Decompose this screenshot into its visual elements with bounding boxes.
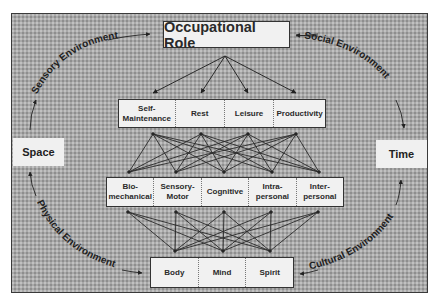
- area-leisure: Leisure: [224, 100, 273, 127]
- performance-components-box: Bio-mechanical Sensory-Motor Cognitive I…: [106, 177, 344, 207]
- physical-environment-label: Physical Environment: [35, 198, 117, 269]
- occupational-performance-diagram: Sensory Environment Social Environment P…: [0, 0, 439, 306]
- person-mind: Mind: [198, 258, 246, 287]
- space-box: Space: [13, 138, 64, 166]
- cultural-arrow-up: [396, 180, 401, 205]
- physical-arrow-right: [122, 270, 142, 273]
- component-biomechanical: Bio-mechanical: [107, 178, 153, 206]
- time-box: Time: [376, 140, 427, 168]
- area-productivity: Productivity: [273, 100, 325, 127]
- areas-to-components-lines: [128, 133, 321, 174]
- sensory-environment-label: Sensory Environment: [29, 29, 119, 95]
- component-interpersonal: Inter-personal: [296, 178, 343, 206]
- performance-areas-box: Self-Maintenance Rest Leisure Productivi…: [118, 99, 326, 128]
- component-intrapersonal: Intra-personal: [248, 178, 295, 206]
- person-body: Body: [151, 258, 198, 287]
- person-box: Body Mind Spirit: [150, 257, 294, 288]
- physical-arrow-up: [30, 172, 36, 196]
- components-to-person-lines: [127, 211, 320, 253]
- occupational-role-box: Occupational Role: [163, 21, 290, 48]
- area-self-maintenance: Self-Maintenance: [119, 100, 175, 127]
- cultural-arrow-left: [300, 270, 318, 274]
- role-to-areas-lines: [153, 56, 296, 93]
- social-environment-label: Social Environment: [304, 30, 393, 81]
- area-rest: Rest: [175, 100, 224, 127]
- cultural-environment-label: Cultural Environment: [308, 211, 396, 272]
- component-sensory-motor: Sensory-Motor: [153, 178, 200, 206]
- person-spirit: Spirit: [245, 258, 293, 287]
- component-cognitive: Cognitive: [201, 178, 248, 206]
- social-arrow-down: [396, 100, 404, 128]
- sensory-arrow-down: [30, 100, 36, 130]
